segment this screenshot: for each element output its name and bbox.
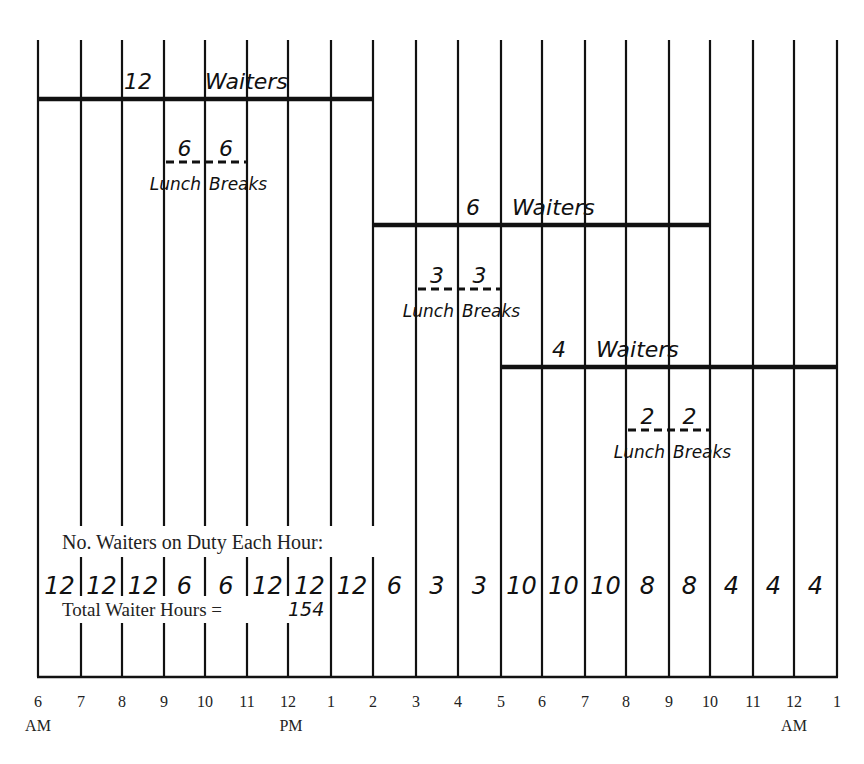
- lunch-split-count: 3: [430, 263, 444, 288]
- x-tick-label: 9: [665, 693, 673, 710]
- total-label: Total Waiter Hours =: [62, 599, 222, 620]
- x-tick-label: 7: [581, 693, 589, 710]
- x-tick-label: 10: [702, 693, 718, 710]
- hourly-count: 10: [590, 572, 621, 600]
- x-tick-label: 1: [833, 693, 841, 710]
- hourly-count: 6: [387, 572, 402, 600]
- hourly-count: 3: [472, 572, 487, 600]
- x-tick-label: 4: [454, 693, 462, 710]
- hourly-count: 6: [177, 572, 192, 600]
- shift-bars: 12Waiters6Waiters4Waiters: [38, 69, 837, 367]
- hourly-count: 10: [506, 572, 537, 600]
- x-tick-label: 10: [197, 693, 213, 710]
- lunch-split-count: 3: [473, 263, 487, 288]
- lunch-split-count: 6: [178, 136, 192, 161]
- x-tick-label: 5: [497, 693, 505, 710]
- hourly-caption: No. Waiters on Duty Each Hour:: [62, 531, 323, 554]
- shift-count: 6: [466, 195, 480, 220]
- x-tick-label: 9: [160, 693, 168, 710]
- hourly-count: 12: [128, 572, 159, 600]
- x-tick-label: 7: [77, 693, 85, 710]
- shift-waiters-label: Waiters: [596, 337, 679, 362]
- hourly-count: 4: [808, 572, 823, 600]
- x-tick-label: 6: [34, 693, 42, 710]
- x-tick-label: 1: [327, 693, 335, 710]
- x-tick-label: 8: [118, 693, 126, 710]
- shift-waiters-label: Waiters: [205, 69, 288, 94]
- lunch-break-markers: 66LunchBreaks33LunchBreaks22LunchBreaks: [150, 136, 732, 462]
- hourly-count: 4: [766, 572, 781, 600]
- lunch-split-count: 2: [683, 404, 697, 429]
- x-tick-label: 6: [538, 693, 546, 710]
- shift-count: 12: [124, 69, 152, 94]
- lunch-split-count: 2: [641, 404, 655, 429]
- total-hours: Total Waiter Hours = 154: [62, 598, 324, 620]
- x-period-label: AM: [781, 717, 807, 734]
- x-tick-label: 12: [280, 693, 296, 710]
- breaks-label: Breaks: [673, 442, 731, 462]
- hourly-count: 8: [682, 572, 697, 600]
- x-tick-label: 12: [786, 693, 802, 710]
- x-period-label: PM: [279, 717, 302, 734]
- hourly-count: 12: [337, 572, 368, 600]
- hourly-count: 12: [294, 572, 325, 600]
- breaks-label: Breaks: [462, 301, 520, 321]
- lunch-label: Lunch: [614, 442, 665, 462]
- hourly-count: 8: [640, 572, 655, 600]
- x-axis-period-labels: AMPMAM: [25, 717, 807, 734]
- x-tick-label: 11: [745, 693, 760, 710]
- total-value: 154: [288, 598, 324, 620]
- lunch-label: Lunch: [403, 301, 454, 321]
- lunch-label: Lunch: [150, 174, 201, 194]
- x-tick-label: 3: [412, 693, 420, 710]
- x-axis-tick-labels: 67891011121234567891011121: [34, 693, 841, 710]
- hourly-count: 12: [44, 572, 75, 600]
- hourly-count: 12: [252, 572, 283, 600]
- lunch-split-count: 6: [219, 136, 233, 161]
- shift-count: 4: [552, 337, 566, 362]
- hourly-count: 12: [86, 572, 117, 600]
- staffing-chart: 12Waiters6Waiters4Waiters 66LunchBreaks3…: [0, 0, 864, 764]
- shift-waiters-label: Waiters: [512, 195, 595, 220]
- hourly-count: 10: [548, 572, 579, 600]
- x-tick-label: 8: [622, 693, 630, 710]
- hourly-count: 6: [218, 572, 233, 600]
- hourly-count: 3: [429, 572, 444, 600]
- breaks-label: Breaks: [209, 174, 267, 194]
- x-period-label: AM: [25, 717, 51, 734]
- hourly-count: 4: [724, 572, 739, 600]
- x-tick-label: 2: [369, 693, 377, 710]
- x-tick-label: 11: [239, 693, 254, 710]
- hourly-counts-row: 1212126612121263310101088444: [44, 572, 823, 600]
